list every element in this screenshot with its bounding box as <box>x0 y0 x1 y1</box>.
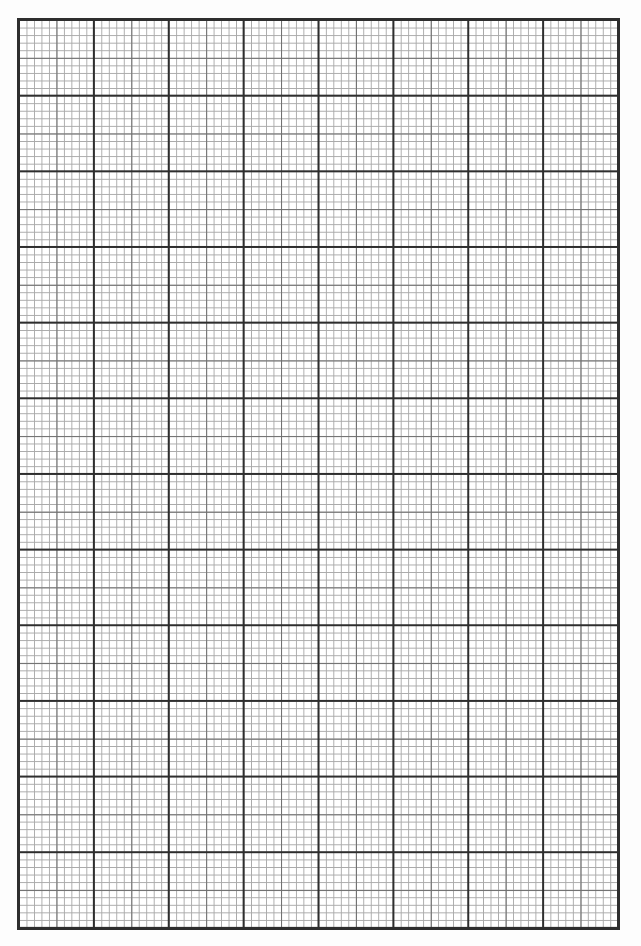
minor-grid-lines <box>19 20 618 928</box>
medium-grid-lines <box>19 20 618 928</box>
graph-grid <box>17 18 620 930</box>
graph-paper-sheet <box>0 0 641 946</box>
major-grid-lines <box>19 20 618 928</box>
